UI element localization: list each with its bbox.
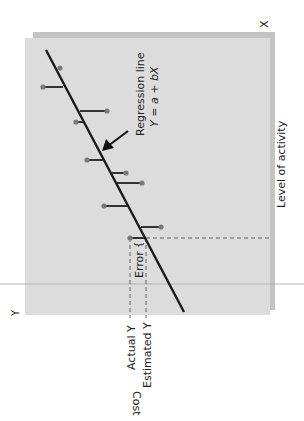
actual-y-label: Actual Y	[125, 325, 138, 370]
data-point	[139, 180, 144, 185]
data-point	[101, 203, 106, 208]
data-point	[40, 84, 45, 89]
regression-label: Regression line	[134, 52, 147, 136]
estimated-y-label: Estimated Y	[141, 322, 154, 388]
data-point	[158, 224, 163, 229]
regression-diagram: Regression line Y = a + bX Level of acti…	[0, 0, 304, 421]
data-point	[123, 170, 128, 175]
data-point	[104, 108, 109, 113]
y-axis-symbol: Y	[10, 309, 21, 317]
regression-equation: Y = a + bX	[148, 66, 161, 127]
data-point	[84, 157, 89, 162]
data-point	[73, 119, 78, 124]
data-point	[57, 65, 62, 70]
x-axis-symbol: X	[258, 20, 271, 28]
error-label: Error	[133, 251, 146, 278]
x-axis-label: Level of activity	[275, 120, 288, 208]
error-brace: {	[133, 242, 144, 248]
data-point	[127, 235, 132, 240]
y-axis-label: Cost	[130, 391, 143, 416]
